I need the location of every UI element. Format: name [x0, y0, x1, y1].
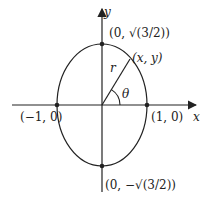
general-point-label: (x, y): [132, 52, 163, 64]
point-right: [145, 103, 150, 108]
left-point-label: (−1, 0): [20, 111, 62, 123]
top-point-label: (0, √(3/2)): [109, 27, 170, 39]
right-point-label: (1, 0): [151, 111, 183, 123]
point-left: [55, 103, 60, 108]
x-axis-label: x: [193, 111, 200, 123]
ellipse-diagram: y x (0, √(3/2)) (0, −√(3/2)) (−1, 0) (1,…: [0, 0, 209, 214]
angle-arc: [111, 90, 120, 105]
y-axis-label: y: [104, 6, 111, 18]
radius-label: r: [110, 62, 116, 74]
angle-label: θ: [122, 88, 129, 100]
point-bottom: [100, 164, 105, 169]
bottom-point-label: (0, −√(3/2)): [105, 179, 176, 191]
point-top: [100, 42, 105, 47]
